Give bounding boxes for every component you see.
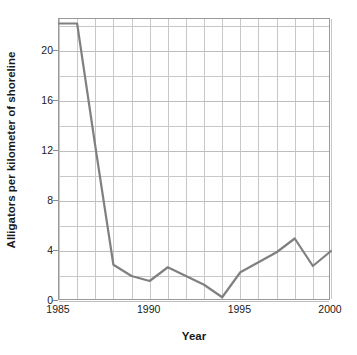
gridline-vertical [331,19,332,299]
y-axis-title: Alligators per kilometer of shoreline [0,0,22,300]
y-tick-mark [53,300,58,301]
x-tick-label: 1990 [126,303,172,315]
y-tick-label: 8 [26,194,53,206]
y-tick-label: 12 [26,144,53,156]
x-tick-label: 1985 [35,303,81,315]
alligator-density-line [59,24,331,298]
y-tick-label: 4 [26,244,53,256]
data-line-series [59,19,331,301]
y-tick-label: 20 [26,44,53,56]
x-tick-label: 1995 [216,303,262,315]
plot-area [58,18,330,300]
y-tick-label: 16 [26,94,53,106]
gridline-horizontal [59,301,329,302]
x-axis-title: Year [58,328,330,344]
chart-figure: Alligators per kilometer of shoreline 04… [0,0,357,355]
x-tick-label: 2000 [307,303,353,315]
